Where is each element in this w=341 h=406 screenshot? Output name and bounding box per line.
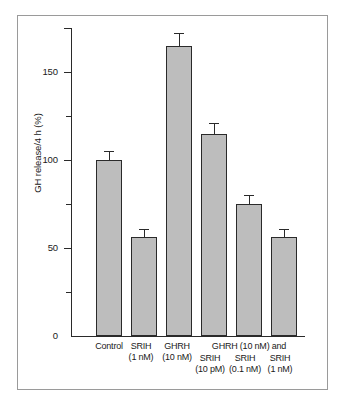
- y-axis-minor-tick-25: [66, 292, 72, 293]
- bar-5: [271, 237, 297, 336]
- y-axis-tick-label-50: 50: [30, 243, 58, 253]
- x-axis-group-header: GHRH (10 nM) and: [186, 341, 312, 352]
- error-bar-stem-0: [109, 151, 110, 160]
- y-axis-tick-150: [64, 72, 72, 73]
- error-bar-stem-1: [144, 229, 145, 238]
- y-axis-tick-100: [64, 160, 72, 161]
- error-bar-cap-5: [279, 229, 289, 230]
- bar-3: [201, 134, 227, 336]
- error-bar-stem-5: [284, 229, 285, 238]
- error-bar-cap-2: [174, 33, 184, 34]
- error-bar-stem-2: [179, 33, 180, 45]
- y-axis-tick-label-150: 150: [30, 67, 58, 77]
- error-bar-stem-4: [249, 195, 250, 204]
- bar-0: [96, 160, 122, 336]
- y-axis-tick-50: [64, 248, 72, 249]
- figure-root: GH release/4 h (%) 150 100 50 0 Control …: [0, 0, 341, 406]
- error-bar-cap-0: [104, 151, 114, 152]
- y-axis-tick-175: [64, 28, 72, 29]
- y-axis-tick-label-100: 100: [30, 155, 58, 165]
- bar-1: [131, 237, 157, 336]
- y-axis-minor-tick-125: [66, 116, 72, 117]
- bar-4: [236, 204, 262, 336]
- error-bar-cap-4: [244, 195, 254, 196]
- y-axis-minor-tick-75: [66, 204, 72, 205]
- x-axis-label-srih-1nm-combo-line1: SRIH: [256, 353, 304, 364]
- error-bar-stem-3: [214, 123, 215, 134]
- y-axis-line: [71, 28, 72, 337]
- error-bar-cap-1: [139, 229, 149, 230]
- plot-area: GH release/4 h (%) 150 100 50 0 Control …: [0, 0, 341, 406]
- error-bar-cap-3: [209, 123, 219, 124]
- x-axis-line: [71, 336, 305, 337]
- bar-2: [166, 46, 192, 336]
- y-axis-tick-label-0: 0: [30, 331, 58, 341]
- y-axis-title: GH release/4 h (%): [33, 98, 43, 208]
- x-axis-label-srih-1nm-combo-line2: (1 nM): [256, 364, 304, 375]
- x-axis-label-srih-1nm-combo: SRIH (1 nM): [256, 353, 304, 375]
